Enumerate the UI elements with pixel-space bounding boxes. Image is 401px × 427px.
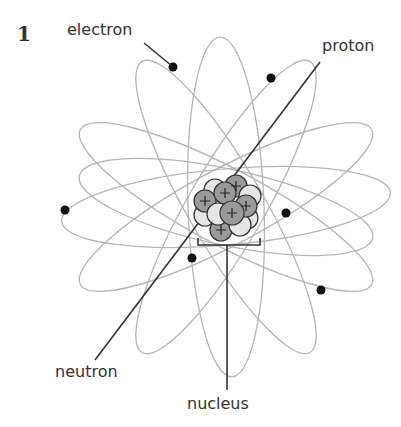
nucleus: [194, 175, 261, 241]
electron-2: [267, 74, 276, 83]
electron-4: [282, 209, 291, 218]
electron-6: [317, 286, 326, 295]
atom-diagram: [0, 0, 401, 427]
electron-5: [188, 254, 197, 263]
electron-3: [61, 206, 70, 215]
electron-leader-line: [144, 43, 172, 66]
